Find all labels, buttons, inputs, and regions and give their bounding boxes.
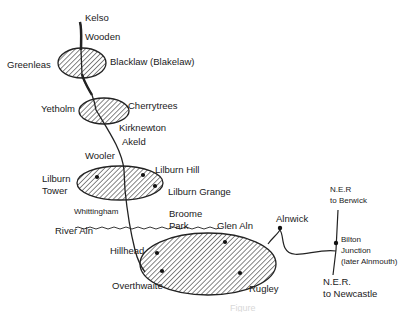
label-kirknewton: Kirknewton: [119, 122, 166, 133]
alnwick-dot: [278, 226, 282, 230]
label-lilburn-tower-line2: Tower: [42, 185, 67, 196]
label-hillhead: Hillhead: [110, 245, 144, 256]
label-akeld: Akeld: [122, 136, 146, 147]
bilton-junction-dot: [334, 241, 338, 245]
label-bilton-line2: Junction: [341, 246, 371, 256]
hillhead-dot: [155, 251, 159, 255]
lilburn-grange-dot: [153, 184, 157, 188]
label-ner-newcastle-line2: to Newcastle: [323, 288, 377, 299]
label-glen-aln: Glen Aln: [217, 220, 253, 231]
label-ner-newcastle-line1: N.E.R.: [323, 276, 351, 287]
route-map-diagram: Kelso Wooden Greenleas Blacklaw (Blakela…: [0, 0, 413, 312]
label-bilton-line1: Bilton: [341, 235, 361, 245]
label-broome-park-line1: Broome: [169, 208, 202, 219]
label-bilton-line3: (later Alnmouth): [341, 257, 397, 267]
label-lilburn-tower-line1: Lilburn: [42, 173, 71, 184]
blacklaw-estate-area: [58, 48, 106, 78]
figure-caption: Figure: [230, 303, 256, 312]
alnwick-branch-line: [268, 230, 336, 254]
glen-aln-dot: [223, 240, 227, 244]
label-river-aln: River Aln: [55, 225, 93, 236]
river-aln-line: [75, 227, 219, 229]
label-cherrytrees: Cherrytrees: [128, 100, 178, 111]
label-greenleas: Greenleas: [7, 59, 51, 70]
label-kelso: Kelso: [85, 12, 109, 23]
label-lilburn-hill: Lilburn Hill: [155, 164, 199, 175]
label-lilburn-grange: Lilburn Grange: [168, 186, 231, 197]
label-wooler: Wooler: [85, 150, 115, 161]
route-line-top-thick: [80, 22, 81, 50]
label-yetholm: Yetholm: [41, 103, 75, 114]
label-blacklaw: Blacklaw (Blakelaw): [110, 56, 194, 67]
label-ner-berwick-line1: N.E.R: [330, 185, 351, 195]
overthwaite-dot: [160, 269, 164, 273]
yetholm-estate-area: [79, 98, 129, 124]
label-wooden: Wooden: [85, 31, 120, 42]
label-alnwick: Alnwick: [276, 213, 308, 224]
label-broome-park-line2: Park: [169, 220, 189, 231]
lilburn-tower-dot: [95, 175, 99, 179]
label-overthwaite: Overthwaite: [112, 280, 163, 291]
lilburn-estate-area: [77, 166, 163, 200]
label-rugley: Rugley: [249, 283, 279, 294]
label-ner-berwick-line2: to Berwick: [330, 196, 367, 206]
label-whittingham: Whittingham: [74, 207, 118, 217]
lilburn-hill-dot: [141, 173, 145, 177]
rugley-dot: [238, 271, 242, 275]
